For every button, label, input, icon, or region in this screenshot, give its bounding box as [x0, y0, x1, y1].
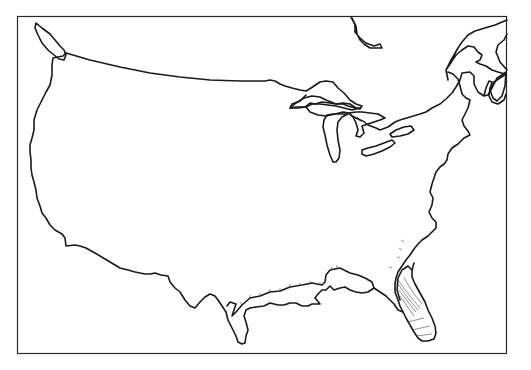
hudson-bay-tip: [351, 17, 382, 48]
map-frame: [18, 17, 507, 354]
map-container: [0, 0, 531, 370]
lake-huron: [349, 112, 385, 137]
us-outline-map: [0, 0, 531, 370]
us-outline: [66, 34, 507, 130]
st-lawrence-and-new-england: [395, 20, 507, 341]
coastal-tick-marks: [240, 240, 404, 305]
lake-michigan: [323, 114, 348, 162]
lake-ontario: [390, 126, 414, 137]
vancouver-island: [35, 23, 66, 60]
lake-erie: [362, 140, 395, 156]
